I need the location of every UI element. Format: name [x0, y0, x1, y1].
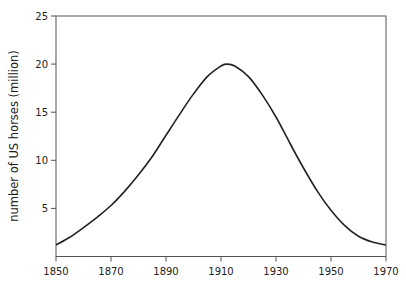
y-tick-label: 10 — [35, 155, 48, 166]
line-chart: 510152025 1850187018901910193019501970 n… — [0, 0, 406, 287]
x-tick-label: 1930 — [263, 266, 288, 277]
x-tick-label: 1850 — [43, 266, 68, 277]
y-tick-label: 15 — [35, 107, 48, 118]
y-tick-label: 5 — [42, 203, 48, 214]
x-tick-label: 1950 — [318, 266, 343, 277]
y-tick-label: 20 — [35, 59, 48, 70]
horse-population-line — [56, 64, 386, 245]
plot-frame — [56, 16, 386, 257]
x-tick-label: 1970 — [373, 266, 398, 277]
y-axis-label: number of US horses (million) — [7, 50, 21, 222]
y-axis: 510152025 — [35, 11, 56, 214]
x-tick-label: 1870 — [98, 266, 123, 277]
x-axis: 1850187018901910193019501970 — [43, 257, 398, 277]
y-tick-label: 25 — [35, 11, 48, 22]
x-tick-label: 1890 — [153, 266, 178, 277]
x-tick-label: 1910 — [208, 266, 233, 277]
